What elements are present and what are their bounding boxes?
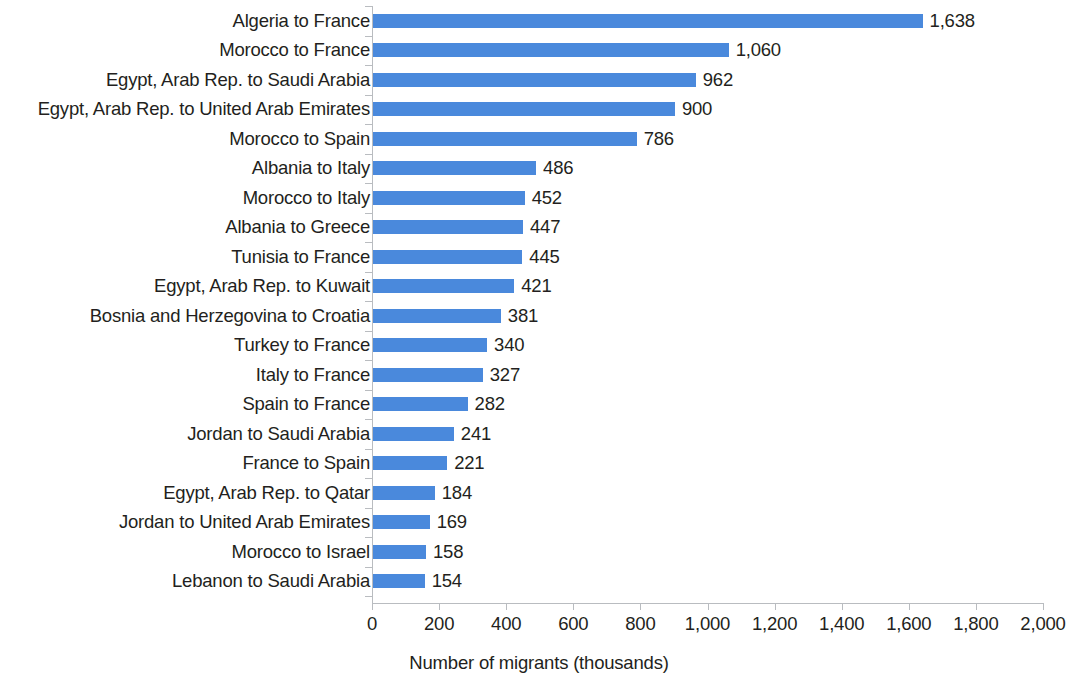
bar-zone: 154 (373, 567, 1078, 597)
x-axis-tick-label: 1,600 (886, 613, 931, 635)
bar-zone: 381 (373, 301, 1078, 331)
y-axis-tick (365, 508, 372, 509)
category-label: Tunisia to France (0, 247, 370, 267)
y-axis-tick (365, 154, 372, 155)
bar-value-label: 900 (682, 99, 712, 119)
y-axis-tick (365, 124, 372, 125)
category-label: Egypt, Arab Rep. to United Arab Emirates (0, 99, 370, 119)
y-axis-tick (365, 242, 372, 243)
category-label: Albania to Greece (0, 217, 370, 237)
bar (373, 161, 536, 175)
bar-zone: 421 (373, 272, 1078, 302)
bar-zone: 221 (373, 449, 1078, 479)
bar-value-label: 282 (475, 394, 505, 414)
y-axis-tick (365, 6, 372, 7)
bar-value-label: 340 (494, 335, 524, 355)
category-label: Morocco to Israel (0, 542, 370, 562)
bar-zone: 1,638 (373, 6, 1078, 36)
y-axis-tick (365, 419, 372, 420)
bar (373, 102, 675, 116)
bar-zone: 900 (373, 95, 1078, 125)
x-axis-tick-label: 1,400 (819, 613, 864, 635)
bar-zone: 1,060 (373, 36, 1078, 66)
category-label: Spain to France (0, 394, 370, 414)
bar (373, 397, 468, 411)
bar-value-label: 962 (703, 70, 733, 90)
bar (373, 515, 430, 529)
bar-zone: 169 (373, 508, 1078, 538)
category-label: France to Spain (0, 453, 370, 473)
x-axis-tick (909, 603, 910, 610)
bar-zone: 452 (373, 183, 1078, 213)
y-axis-tick (365, 390, 372, 391)
y-axis-tick (365, 360, 372, 361)
bar-zone: 184 (373, 478, 1078, 508)
y-axis-tick (365, 596, 372, 597)
bar-value-label: 381 (508, 306, 538, 326)
category-label: Bosnia and Herzegovina to Croatia (0, 306, 370, 326)
bar-zone: 327 (373, 360, 1078, 390)
bar-zone: 158 (373, 537, 1078, 567)
bar-row: Bosnia and Herzegovina to Croatia381 (0, 301, 1078, 331)
category-label: Egypt, Arab Rep. to Saudi Arabia (0, 70, 370, 90)
y-axis-tick (365, 272, 372, 273)
bar-zone: 445 (373, 242, 1078, 272)
bar-zone: 340 (373, 331, 1078, 361)
bar-value-label: 327 (490, 365, 520, 385)
y-axis-tick (365, 567, 372, 568)
bar-row: Jordan to United Arab Emirates169 (0, 508, 1078, 538)
bar-value-label: 241 (461, 424, 491, 444)
bar-zone: 241 (373, 419, 1078, 449)
x-axis-tick-label: 1,000 (685, 613, 730, 635)
bar-zone: 962 (373, 65, 1078, 95)
bar-value-label: 786 (644, 129, 674, 149)
category-label: Jordan to United Arab Emirates (0, 512, 370, 532)
x-axis-tick (708, 603, 709, 610)
x-axis-tick (976, 603, 977, 610)
x-axis-title: Number of migrants (thousands) (0, 652, 1078, 674)
bar (373, 545, 426, 559)
bar-row: Morocco to France1,060 (0, 36, 1078, 66)
y-axis-tick (365, 65, 372, 66)
bar-row: Albania to Italy486 (0, 154, 1078, 184)
category-label: Morocco to Italy (0, 188, 370, 208)
bar-value-label: 486 (543, 158, 573, 178)
x-axis-tick (573, 603, 574, 610)
x-axis-tick-label: 600 (558, 613, 588, 635)
category-label: Egypt, Arab Rep. to Qatar (0, 483, 370, 503)
category-label: Turkey to France (0, 335, 370, 355)
category-label: Egypt, Arab Rep. to Kuwait (0, 276, 370, 296)
y-axis-tick (365, 537, 372, 538)
category-label: Lebanon to Saudi Arabia (0, 571, 370, 591)
y-axis-tick (365, 183, 372, 184)
y-axis-tick (365, 36, 372, 37)
bar (373, 368, 483, 382)
bar-row: Algeria to France1,638 (0, 6, 1078, 36)
bar-row: Egypt, Arab Rep. to Qatar184 (0, 478, 1078, 508)
bar (373, 574, 425, 588)
bar-row: Albania to Greece447 (0, 213, 1078, 243)
bar-row: Italy to France327 (0, 360, 1078, 390)
bar (373, 220, 523, 234)
x-axis-tick-label: 400 (491, 613, 521, 635)
x-axis-tick (506, 603, 507, 610)
bar-value-label: 1,060 (736, 40, 781, 60)
bar-row: Egypt, Arab Rep. to Saudi Arabia962 (0, 65, 1078, 95)
bar-row: Morocco to Israel158 (0, 537, 1078, 567)
bar (373, 43, 729, 57)
x-axis-tick-label: 0 (367, 613, 377, 635)
bar-row: Morocco to Spain786 (0, 124, 1078, 154)
bar-value-label: 452 (532, 188, 562, 208)
x-axis-tick-label: 800 (625, 613, 655, 635)
x-axis-tick (439, 603, 440, 610)
bar-value-label: 421 (521, 276, 551, 296)
category-label: Algeria to France (0, 11, 370, 31)
bar-zone: 786 (373, 124, 1078, 154)
bar (373, 486, 435, 500)
bar (373, 309, 501, 323)
y-axis-tick (365, 449, 372, 450)
y-axis-tick (365, 331, 372, 332)
x-axis-tick-label: 1,800 (953, 613, 998, 635)
y-axis-tick (365, 301, 372, 302)
bar-row: Lebanon to Saudi Arabia154 (0, 567, 1078, 597)
